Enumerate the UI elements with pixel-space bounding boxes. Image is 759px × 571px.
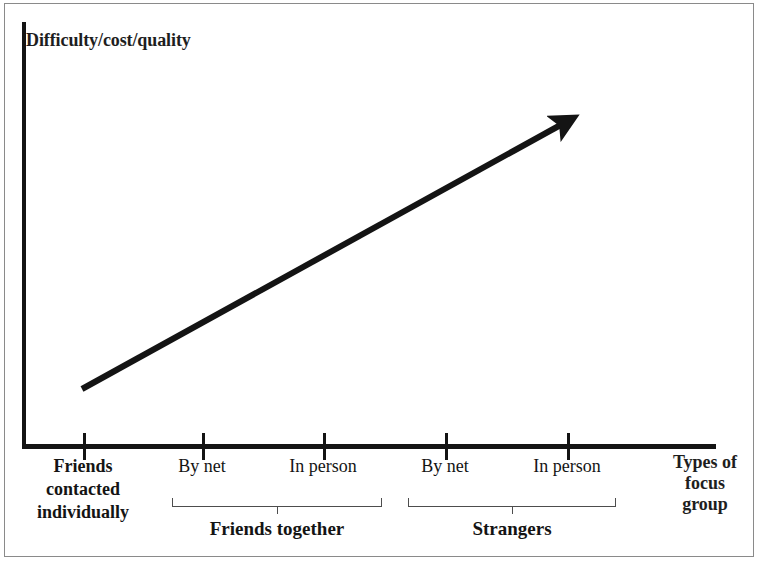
brace-stem [277,506,278,514]
y-axis-title: Difficulty/cost/quality [26,30,191,51]
group-label-friends-together: Friends together [177,518,377,540]
group-label-strangers: Strangers [412,518,612,540]
tick-label-strangers-by-net: By net [385,455,505,478]
x-axis-title-line-2: focus [655,473,755,494]
brace-strangers [408,498,616,512]
focus-group-cost-chart: Difficulty/cost/quality Types of focus g… [0,0,759,571]
x-axis-line [22,444,716,449]
x-axis-title: Types of focus group [655,452,755,515]
brace-stem [512,506,513,514]
brace-friends-together [172,498,382,512]
brace-leg-right [381,498,382,507]
tick-label-strangers-in-person: In person [497,455,637,478]
tick-label-friends-individual: Friends contacted individually [13,455,153,524]
tick-label-friends-in-person: In person [253,455,393,478]
x-axis-title-line-1: Types of [655,452,755,473]
tick-label-friends-by-net: By net [142,455,262,478]
x-axis-title-line-3: group [655,494,755,515]
y-axis-line [22,22,26,449]
brace-leg-right [615,498,616,507]
